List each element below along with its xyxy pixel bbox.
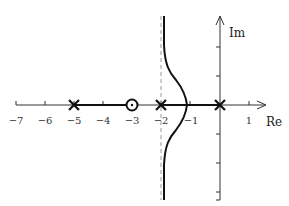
- svg-text:−3: −3: [125, 115, 140, 126]
- real-axis: [16, 101, 266, 109]
- y-ticks: [216, 47, 220, 192]
- zero-marker: [127, 100, 138, 111]
- real-axis-label: Re: [266, 115, 282, 129]
- svg-text:1: 1: [246, 115, 252, 126]
- x-tick-labels: −7 −6 −5 −4 −3 −2 −1 1: [9, 115, 253, 126]
- svg-text:−1: −1: [184, 115, 199, 126]
- svg-text:−7: −7: [9, 115, 24, 126]
- svg-text:−4: −4: [96, 115, 111, 126]
- imaginary-axis-label: Im: [229, 26, 246, 40]
- root-locus-diagram: −7 −6 −5 −4 −3 −2 −1 1 Re Im: [0, 0, 289, 206]
- svg-text:−6: −6: [38, 115, 53, 126]
- locus-branch-upper: [164, 16, 187, 105]
- svg-text:−5: −5: [67, 115, 82, 126]
